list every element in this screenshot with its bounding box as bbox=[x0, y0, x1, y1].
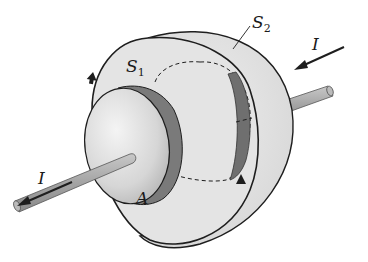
label-s2: S2 bbox=[252, 12, 271, 35]
capacitor-diagram: I I S2 S1 A bbox=[0, 0, 368, 262]
label-current-in: I bbox=[311, 34, 319, 54]
arrow-left-icon bbox=[294, 60, 308, 70]
current-arrow-right: I bbox=[294, 34, 344, 70]
label-current-out: I bbox=[37, 168, 45, 188]
label-plate-area: A bbox=[134, 188, 148, 208]
